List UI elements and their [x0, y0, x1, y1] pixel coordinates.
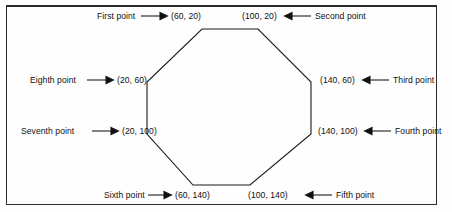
vertex-label-second: Second point — [315, 12, 366, 21]
arrow-head-seventh — [111, 127, 119, 134]
vertex-label-seventh: Seventh point — [21, 127, 74, 136]
vertex-coord-seventh: (20, 100) — [122, 127, 157, 136]
arrow-head-second — [285, 12, 293, 19]
vertex-coord-sixth: (60, 140) — [175, 191, 210, 200]
arrow-head-fifth — [306, 191, 314, 198]
arrow-head-fourth — [365, 127, 373, 134]
vertex-coord-third: (140, 60) — [320, 76, 355, 85]
vertex-label-eighth: Eighth point — [30, 76, 76, 85]
arrow-head-eighth — [106, 76, 114, 83]
diagram-page: First point (60, 20) Eighth point (20, 6… — [0, 0, 452, 212]
vertex-label-third: Third point — [393, 76, 434, 85]
vertex-label-sixth: Sixth point — [104, 191, 145, 200]
vertex-coord-eighth: (20, 60) — [117, 76, 147, 85]
arrow-head-sixth — [164, 191, 172, 198]
vertex-coord-fifth: (100, 140) — [248, 191, 288, 200]
vertex-coord-first: (60, 20) — [171, 12, 201, 21]
vertex-label-first: First point — [97, 12, 135, 21]
vertex-coord-second: (100, 20) — [242, 12, 277, 21]
arrow-head-third — [363, 76, 371, 83]
arrow-group — [87, 12, 391, 198]
vertex-coord-fourth: (140, 100) — [318, 127, 358, 136]
vertex-label-fifth: Fifth point — [336, 191, 374, 200]
octagon-outline — [147, 29, 311, 185]
vertex-label-fourth: Fourth point — [395, 127, 441, 136]
octagon-drawing — [0, 0, 452, 212]
arrow-head-first — [160, 12, 168, 19]
